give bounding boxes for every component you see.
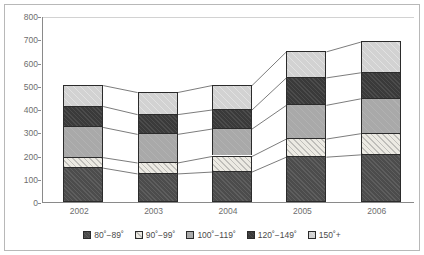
connector-line [252, 105, 286, 129]
bar-group-2005[interactable] [286, 16, 326, 202]
legend-item[interactable]: 80˚−89˚ [83, 230, 124, 240]
legend-swatch-icon [186, 231, 194, 239]
connector-line [103, 86, 137, 93]
y-tick-label: 700 [4, 36, 38, 45]
bar-segment[interactable] [63, 157, 103, 167]
bar-segment[interactable] [63, 106, 103, 127]
connector-line [252, 139, 286, 156]
y-axis: 0100200300400500600700800 [0, 17, 38, 203]
bar-segment[interactable] [286, 138, 326, 156]
bar-segment[interactable] [138, 162, 178, 173]
connector-line [103, 168, 137, 174]
y-tick-label: 100 [4, 175, 38, 184]
bar-segment[interactable] [361, 41, 401, 72]
bar-segment[interactable] [212, 85, 252, 109]
x-tick-label-2004: 2004 [191, 206, 265, 216]
legend-label: 100˚−119˚ [197, 230, 235, 240]
y-tick-label: 500 [4, 82, 38, 91]
y-tick-label: 300 [4, 129, 38, 138]
y-tick-mark [38, 17, 41, 18]
x-axis: 20022003200420052006 [42, 205, 414, 219]
bar-segment[interactable] [212, 156, 252, 172]
legend-item[interactable]: 120˚−149˚ [247, 230, 297, 240]
connector-line [326, 155, 360, 157]
plot-area [42, 17, 414, 203]
bar-segment[interactable] [63, 126, 103, 156]
x-tick-label-2003: 2003 [116, 206, 190, 216]
connector-line [178, 172, 212, 174]
y-tick-mark [38, 40, 41, 41]
legend-label: 150˚+ [319, 230, 341, 240]
bar-segment[interactable] [361, 72, 401, 98]
connector-line [103, 158, 137, 163]
bar-segment[interactable] [138, 133, 178, 162]
x-tick-label-2002: 2002 [42, 206, 116, 216]
legend-item[interactable]: 100˚−119˚ [186, 230, 235, 240]
y-tick-label: 400 [4, 106, 38, 115]
bar-segment[interactable] [212, 171, 252, 202]
y-tick-mark [38, 180, 41, 181]
legend-label: 80˚−89˚ [94, 230, 124, 240]
bar-segment[interactable] [138, 114, 178, 134]
y-tick-mark [38, 157, 41, 158]
y-tick-label: 200 [4, 152, 38, 161]
connector-line [178, 157, 212, 164]
bar-group-2004[interactable] [212, 16, 252, 202]
y-tick-mark [38, 133, 41, 134]
bar-segment[interactable] [361, 98, 401, 133]
bar-segment[interactable] [63, 85, 103, 106]
legend-swatch-icon [135, 231, 143, 239]
connector-line [103, 107, 137, 115]
connector-line [103, 127, 137, 134]
connector-line [178, 86, 212, 93]
connector-line [252, 78, 286, 110]
connector-line [326, 134, 360, 139]
y-tick-mark [38, 64, 41, 65]
legend-item[interactable]: 150˚+ [308, 230, 341, 240]
chart-root: 0100200300400500600700800 20022003200420… [0, 0, 424, 255]
connector-line [326, 99, 360, 106]
bar-segment[interactable] [361, 154, 401, 202]
connector-line [252, 52, 286, 86]
bar-segment[interactable] [286, 104, 326, 138]
x-tick-label-2005: 2005 [265, 206, 339, 216]
connector-line [178, 129, 212, 134]
y-tick-mark [38, 87, 41, 88]
bar-segment[interactable] [361, 133, 401, 154]
legend-label: 90˚−99˚ [146, 230, 176, 240]
bar-segment[interactable] [63, 167, 103, 202]
legend-swatch-icon [83, 231, 91, 239]
y-tick-label: 800 [4, 13, 38, 22]
bar-group-2003[interactable] [138, 16, 178, 202]
legend-swatch-icon [308, 231, 316, 239]
bar-segment[interactable] [138, 92, 178, 114]
connector-line [178, 110, 212, 115]
y-tick-mark [38, 203, 41, 204]
plot-left-axis-line [42, 17, 43, 203]
legend-swatch-icon [247, 231, 255, 239]
chart-legend: 80˚−89˚90˚−99˚100˚−119˚120˚−149˚150˚+ [4, 226, 420, 244]
bar-segment[interactable] [286, 77, 326, 104]
plot-bottom-axis-line [42, 202, 414, 203]
bar-group-2002[interactable] [63, 16, 103, 202]
legend-item[interactable]: 90˚−99˚ [135, 230, 176, 240]
bar-segment[interactable] [286, 156, 326, 202]
bar-group-2006[interactable] [361, 16, 401, 202]
connector-line [326, 73, 360, 78]
legend-label: 120˚−149˚ [258, 230, 297, 240]
bar-segment[interactable] [212, 109, 252, 128]
y-tick-label: 0 [4, 199, 38, 208]
y-tick-label: 600 [4, 59, 38, 68]
x-tick-label-2006: 2006 [340, 206, 414, 216]
connector-line [326, 42, 360, 52]
bar-segment[interactable] [212, 128, 252, 155]
connector-line [252, 157, 286, 172]
bar-segment[interactable] [286, 51, 326, 77]
y-tick-mark [38, 110, 41, 111]
bar-segment[interactable] [138, 173, 178, 202]
